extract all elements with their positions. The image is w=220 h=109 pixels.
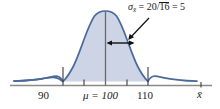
curve-left-tail [14, 76, 63, 81]
radical-bar [159, 2, 169, 3]
equals-sign-1: = [139, 1, 145, 12]
sigma-subscript: x̄ [133, 6, 136, 14]
standard-error-formula: σx̄ = 20/16 = 5 [128, 2, 185, 14]
axis-label-90: 90 [38, 90, 49, 101]
axis-label-mean: μ = 100 [83, 90, 118, 101]
equals-sign-2: = [172, 1, 178, 12]
radical-group: 16 [159, 2, 169, 12]
numerator-value: 20 [147, 1, 157, 12]
annotation-leader-line [128, 18, 149, 40]
result-value: 5 [180, 1, 185, 12]
normal-distribution-figure: σx̄ = 20/16 = 5 90 μ = 100 110 x̄ [0, 0, 220, 109]
radicand-value: 16 [159, 1, 169, 12]
axis-label-110: 110 [137, 90, 153, 101]
curve-right-tail [148, 76, 197, 81]
axis-label-variable: x̄ [197, 89, 202, 100]
